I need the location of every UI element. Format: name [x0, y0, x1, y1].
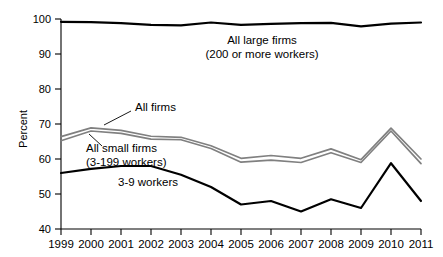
x-tick-label-2003: 2003 — [168, 238, 194, 250]
annotation-all-large-firms-line1: All large firms — [227, 34, 297, 46]
x-tick-label-2011: 2011 — [409, 238, 434, 250]
x-tick-label-2010: 2010 — [378, 238, 404, 250]
x-tick-label-2005: 2005 — [228, 238, 254, 250]
x-tick-label-2006: 2006 — [258, 238, 284, 250]
annotation-all-small-firms-line2: (3-199 workers) — [86, 156, 167, 168]
chart-canvas: 100 90 80 70 60 50 40 Percent 1999200020… — [0, 0, 443, 257]
annotation-3-9-workers: 3-9 workers — [118, 176, 178, 188]
y-tick-label-60: 60 — [39, 153, 51, 165]
annotation-all-firms: All firms — [135, 101, 176, 113]
annotation-all-large-firms-line2: (200 or more workers) — [205, 48, 318, 60]
y-tick-label-80: 80 — [39, 83, 51, 95]
x-tick-label-1999: 1999 — [48, 238, 74, 250]
y-tick-label-90: 90 — [39, 48, 51, 60]
x-tick-label-2009: 2009 — [348, 238, 374, 250]
annotation-all-small-firms-line1: All small firms — [86, 142, 157, 154]
x-tick-label-2007: 2007 — [288, 238, 314, 250]
y-tick-label-70: 70 — [39, 118, 51, 130]
line-chart: 100 90 80 70 60 50 40 Percent 1999200020… — [0, 0, 443, 257]
y-tick-label-50: 50 — [39, 188, 51, 200]
x-tick-label-2001: 2001 — [108, 238, 134, 250]
x-tick-label-2000: 2000 — [78, 238, 104, 250]
x-tick-label-2008: 2008 — [318, 238, 344, 250]
y-tick-label-40: 40 — [39, 223, 51, 235]
x-tick-label-2004: 2004 — [198, 238, 224, 250]
chart-background — [0, 0, 443, 257]
y-axis-title: Percent — [17, 110, 29, 148]
y-tick-label-100: 100 — [33, 13, 51, 25]
x-tick-label-2002: 2002 — [138, 238, 164, 250]
